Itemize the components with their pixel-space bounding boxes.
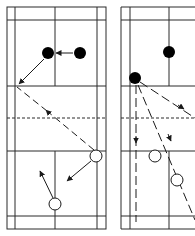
right-player-open-2 (171, 174, 183, 186)
left-move-arrow-3 (67, 161, 91, 181)
right-shot-diagonal (138, 85, 195, 220)
left-move-arrow-4 (40, 171, 53, 198)
left-shot-path-upper (17, 87, 47, 111)
left-court-outer-boundary (7, 7, 106, 229)
right-player-filled-2 (129, 72, 141, 84)
left-move-arrow-2 (19, 59, 44, 84)
right-shot-cross (140, 82, 195, 118)
left-player-open-2 (49, 198, 61, 210)
left-player-filled-1 (42, 47, 54, 59)
right-shot-diagonal-arrowhead (168, 134, 171, 141)
right-court (121, 7, 195, 229)
left-player-filled-2 (74, 47, 86, 59)
left-court (7, 7, 106, 229)
right-player-filled-1 (163, 46, 175, 58)
left-shot-path-lower (47, 111, 94, 150)
right-player-open-1 (149, 150, 161, 162)
court-diagram (0, 0, 195, 236)
left-player-open-1 (90, 150, 102, 162)
